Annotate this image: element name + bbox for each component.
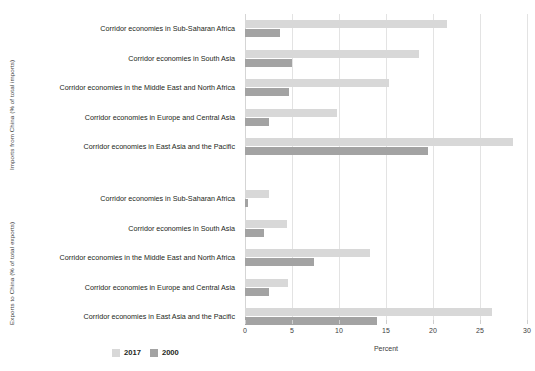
x-tick-label-10: 10 — [335, 327, 343, 334]
x-axis: 051015202530 — [245, 324, 527, 338]
category-label: Corridor economies in Sub-Saharan Africa — [0, 194, 240, 203]
bar-row — [245, 79, 527, 97]
legend-item-2017: 2017 — [112, 348, 141, 357]
bar-2000 — [245, 229, 264, 237]
category-label: Corridor economies in East Asia and the … — [0, 312, 240, 321]
x-tick-mark-15 — [386, 320, 387, 324]
category-label: Corridor economies in South Asia — [0, 54, 240, 63]
x-tick-mark-20 — [433, 320, 434, 324]
bar-2000 — [245, 199, 248, 207]
bar-2000 — [245, 59, 292, 67]
x-tick-mark-25 — [480, 320, 481, 324]
x-tick-label-25: 25 — [476, 327, 484, 334]
x-tick-label-20: 20 — [429, 327, 437, 334]
legend-label-2000: 2000 — [162, 348, 179, 357]
axis-group-title-exports: Exports to China (% of total exports) — [9, 222, 15, 325]
bar-row — [245, 279, 527, 297]
chart-legend: 2017 2000 — [112, 348, 179, 357]
category-label: Corridor economies in Europe and Central… — [0, 113, 240, 122]
x-tick-label-30: 30 — [523, 327, 531, 334]
bar-2017 — [245, 308, 492, 316]
x-tick-label-15: 15 — [382, 327, 390, 334]
x-tick-mark-30 — [527, 320, 528, 324]
gridline-30 — [527, 14, 528, 324]
legend-swatch-2017 — [112, 349, 120, 357]
bar-2000 — [245, 288, 269, 296]
legend-swatch-2000 — [150, 349, 158, 357]
bar-2017 — [245, 79, 389, 87]
legend-item-2000: 2000 — [150, 348, 179, 357]
bar-row — [245, 220, 527, 238]
bar-2000 — [245, 88, 289, 96]
category-label: Corridor economies in Sub-Saharan Africa — [0, 24, 240, 33]
category-label: Corridor economies in South Asia — [0, 224, 240, 233]
bar-2017 — [245, 50, 419, 58]
bar-2017 — [245, 279, 288, 287]
bar-2017 — [245, 109, 337, 117]
legend-label-2017: 2017 — [124, 348, 141, 357]
category-label: Corridor economies in the Middle East an… — [0, 253, 240, 262]
bar-2017 — [245, 138, 513, 146]
bar-2017 — [245, 190, 269, 198]
x-tick-label-0: 0 — [243, 327, 247, 334]
bar-2017 — [245, 249, 370, 257]
bar-row — [245, 109, 527, 127]
x-tick-label-5: 5 — [290, 327, 294, 334]
bar-row — [245, 138, 527, 156]
bar-2000 — [245, 147, 428, 155]
x-tick-mark-10 — [339, 320, 340, 324]
plot-area — [245, 14, 527, 324]
bar-2000 — [245, 29, 280, 37]
category-label: Corridor economies in East Asia and the … — [0, 142, 240, 151]
bar-2017 — [245, 220, 287, 228]
x-tick-mark-0 — [245, 320, 246, 324]
x-tick-mark-5 — [292, 320, 293, 324]
x-axis-label: Percent — [374, 345, 398, 352]
bar-row — [245, 20, 527, 38]
bar-2000 — [245, 258, 314, 266]
bar-row — [245, 50, 527, 68]
bar-row — [245, 249, 527, 267]
bar-row — [245, 190, 527, 208]
bar-2000 — [245, 118, 269, 126]
bar-2017 — [245, 20, 447, 28]
category-label: Corridor economies in the Middle East an… — [0, 83, 240, 92]
category-label: Corridor economies in Europe and Central… — [0, 283, 240, 292]
chart-container: Imports from China (% of total imports) … — [0, 0, 535, 371]
